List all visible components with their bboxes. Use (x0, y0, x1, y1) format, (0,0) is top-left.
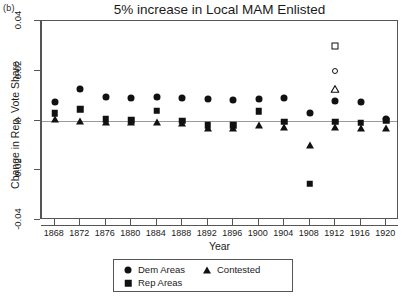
data-point (153, 93, 160, 100)
data-point (77, 85, 84, 92)
data-point (281, 95, 288, 102)
data-point (204, 96, 211, 103)
y-tick-mark (34, 169, 40, 170)
chart-title: 5% increase in Local MAM Enlisted (41, 2, 398, 17)
data-point (357, 124, 365, 131)
data-point (153, 118, 161, 125)
x-tick-label: 1892 (197, 228, 217, 238)
x-tick-mark (258, 219, 259, 225)
x-tick-label: 1904 (273, 228, 293, 238)
data-point (255, 122, 263, 129)
y-tick-mark (34, 219, 40, 220)
data-point (306, 142, 314, 149)
x-tick-label: 1872 (69, 228, 89, 238)
x-tick-label: 1896 (222, 228, 242, 238)
x-axis-title: Year (41, 240, 398, 252)
data-point (204, 124, 212, 131)
x-tick-mark (283, 219, 284, 225)
legend-marker-square-icon (125, 280, 132, 287)
data-point (128, 95, 135, 102)
legend-label: Contested (217, 264, 260, 275)
data-point (229, 124, 237, 131)
y-tick-label-text: 0 (11, 117, 22, 122)
x-tick-mark (232, 219, 233, 225)
y-axis-title: Change in Rep. Vote Share (9, 25, 21, 225)
scatter-chart-figure: (b) 5% increase in Local MAM Enlisted Ch… (0, 0, 409, 303)
y-tick-label-text: 0.02 (11, 61, 22, 80)
data-point (306, 110, 313, 117)
data-point (280, 123, 288, 130)
x-tick-mark (130, 219, 131, 225)
data-point (307, 181, 314, 188)
data-point (332, 42, 339, 49)
data-point (102, 93, 109, 100)
legend-marker-triangle-icon (203, 267, 211, 274)
x-tick-mark (105, 219, 106, 225)
x-axis-line (41, 225, 398, 226)
x-tick-label: 1876 (95, 228, 115, 238)
x-tick-label: 1920 (375, 228, 395, 238)
data-point (230, 97, 237, 104)
data-point (331, 123, 339, 130)
x-tick-mark (309, 219, 310, 225)
x-tick-label: 1880 (120, 228, 140, 238)
x-tick-mark (334, 219, 335, 225)
x-tick-mark (207, 219, 208, 225)
data-point (255, 96, 262, 103)
data-point (332, 97, 339, 104)
x-tick-label: 1888 (171, 228, 191, 238)
plot-area (41, 20, 398, 219)
chart-legend: Dem AreasContestedRep Areas (113, 259, 293, 292)
data-point (179, 94, 186, 101)
legend-label: Rep Areas (138, 277, 182, 288)
data-point (76, 117, 84, 124)
x-tick-label: 1884 (146, 228, 166, 238)
zero-reference-line (42, 121, 397, 122)
data-point (178, 119, 186, 126)
legend-marker-circle-icon (125, 267, 132, 274)
x-tick-mark (156, 219, 157, 225)
y-tick-mark (34, 120, 40, 121)
y-tick-label-text: -0.02 (11, 158, 22, 180)
x-tick-label: 1908 (299, 228, 319, 238)
data-point (77, 106, 84, 113)
legend-label: Dem Areas (138, 264, 185, 275)
plot-inner (42, 21, 397, 218)
data-point (102, 118, 110, 125)
x-tick-mark (181, 219, 182, 225)
data-point (154, 107, 161, 114)
x-tick-mark (54, 219, 55, 225)
data-point (51, 98, 58, 105)
data-point (331, 85, 340, 93)
data-point (51, 116, 59, 123)
x-tick-label: 1900 (248, 228, 268, 238)
data-point (357, 98, 364, 105)
data-point (256, 108, 263, 115)
x-tick-mark (79, 219, 80, 225)
y-tick-mark (34, 70, 40, 71)
data-point (383, 117, 390, 124)
x-tick-label: 1912 (324, 228, 344, 238)
data-point (127, 118, 135, 125)
x-tick-mark (385, 219, 386, 225)
x-tick-label: 1868 (44, 228, 64, 238)
x-tick-mark (360, 219, 361, 225)
data-point (382, 124, 390, 131)
y-tick-mark (34, 20, 40, 21)
y-tick-label-text: 0.04 (11, 11, 22, 30)
data-point (332, 68, 338, 74)
x-tick-label: 1916 (350, 228, 370, 238)
y-tick-label-text: -0.04 (11, 208, 22, 230)
